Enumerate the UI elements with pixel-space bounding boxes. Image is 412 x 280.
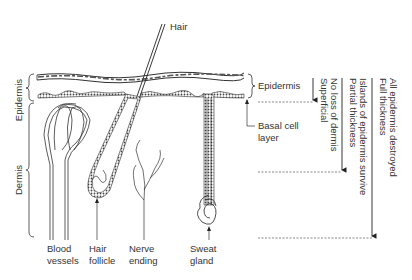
full-thickness-label: Full thickness	[378, 78, 389, 136]
nerve-ending-label-1: Nerve	[129, 243, 154, 254]
epidermis-right-label: Epidermis	[258, 80, 300, 91]
sweat-gland-label-1: Sweat	[190, 243, 217, 254]
skin-burn-depth-diagram: Epidermis Dermis Hair	[0, 0, 412, 280]
epidermis-left-brace	[26, 74, 34, 101]
partial-thickness-desc: Islands of epidermis survive	[358, 78, 369, 195]
hair-follicle	[88, 94, 141, 240]
blood-vessels-label-1: Blood	[47, 243, 71, 254]
full-thickness-desc: All epidermis destroyed	[388, 78, 399, 177]
blood-vessels	[44, 104, 90, 241]
dermis-left-brace	[26, 103, 34, 237]
basal-layer-label: layer	[258, 132, 279, 143]
superficial-desc: No loss of dermis	[329, 78, 340, 152]
epidermis-surface	[37, 72, 244, 83]
superficial-label: Superficial	[319, 78, 330, 122]
hair-label: Hair	[170, 21, 187, 32]
epidermis-left-label: Epidermis	[13, 79, 24, 121]
dermis-left-label: Dermis	[13, 165, 24, 195]
basal-cell-label: Basal cell	[258, 120, 299, 131]
structure-labels: Blood vessels Hair follicle Nerve ending…	[47, 243, 217, 266]
nerve-ending	[133, 140, 164, 240]
sweat-gland	[197, 94, 216, 240]
burn-depth-labels: Superficial No loss of dermis Partial th…	[319, 78, 399, 195]
right-layer-labels: Epidermis Basal cell layer	[245, 74, 300, 143]
nerve-ending-label-2: ending	[129, 255, 158, 266]
sweat-gland-label-2: gland	[190, 255, 213, 266]
hair-follicle-label-2: follicle	[89, 255, 115, 266]
epidermis-right-brace	[248, 74, 255, 98]
hair-follicle-label-1: Hair	[89, 243, 106, 254]
left-layer-labels: Epidermis Dermis	[13, 74, 34, 237]
partial-thickness-label: Partial thickness	[348, 78, 359, 147]
blood-vessels-label-2: vessels	[47, 255, 79, 266]
